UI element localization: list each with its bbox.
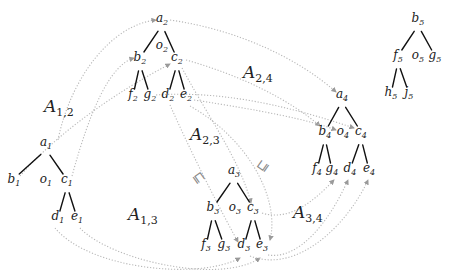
morphism-arrow-e1-e3: [80, 228, 260, 269]
tree-edge-c1-d1: [60, 193, 65, 211]
tree-edge-a1-b1: [19, 155, 41, 174]
tree-node-e3: e3: [256, 237, 268, 253]
morphism-label-A23: A2,3: [188, 124, 220, 147]
tree-node-f5: f5: [392, 48, 403, 64]
tree-node-d2: d2: [162, 87, 175, 103]
tree-edge-c4-d4: [352, 145, 358, 163]
tree-node-b5: b5: [412, 11, 425, 27]
morphism-label-A12: A1,2: [42, 96, 74, 119]
tree-node-a2: a2: [156, 11, 168, 27]
morphism-label-A34: A3,4: [291, 202, 323, 225]
tree-node-o4: o4: [337, 124, 349, 140]
tree-node-a3: a3: [228, 163, 240, 179]
tree-node-g2: g2: [144, 87, 157, 103]
tree-edge-c3-d3: [246, 221, 251, 239]
tree-node-o1: o1: [40, 172, 52, 188]
tree-edge-c2-d2: [170, 71, 175, 89]
tree-node-d1: d1: [52, 209, 65, 225]
tree-node-a4: a4: [336, 87, 348, 103]
tree-node-f2: f2: [127, 87, 138, 103]
tree-edge-b3-f3: [207, 221, 211, 239]
tree-edge-b4-f4: [319, 145, 324, 163]
tree-node-d4: d4: [344, 161, 357, 177]
tree-node-f4: f4: [311, 161, 322, 177]
tree-node-e4: e4: [363, 161, 375, 177]
morphism-arrows: [20, 20, 368, 269]
tree-node-f3: f3: [200, 237, 211, 253]
tree-node-d3: d3: [238, 237, 251, 253]
tree-morphism-diagram: a1b1o1c1d1e1a2o2b2c2f2g2d2e2a3b3o3c3f3g3…: [0, 0, 463, 280]
tree-node-c3: c3: [247, 200, 259, 216]
tree-node-g3: g3: [218, 237, 231, 253]
tree-edges: [19, 31, 431, 239]
morphism-arrow-c1-b2: [72, 58, 134, 176]
tree-node-o3: o3: [229, 200, 241, 216]
tree-edge-b2-f2: [134, 71, 138, 89]
morphism-arrow-d1-d3: [55, 228, 240, 269]
tree-node-g5: g5: [429, 48, 442, 64]
sqsubseteq-symbol-icon: ⊑: [190, 169, 209, 187]
tree-node-b4: b4: [319, 124, 332, 140]
tree-node-c1: c1: [61, 172, 73, 188]
tree-node-j5: j5: [402, 85, 414, 101]
tree-node-b1: b1: [8, 172, 21, 188]
tree-node-g4: g4: [326, 161, 339, 177]
morphism-label-A13: A1,3: [126, 204, 158, 227]
morphism-arrow-a1-a2: [58, 20, 156, 140]
tree-node-e1: e1: [71, 209, 83, 225]
tree-node-e2: e2: [180, 87, 192, 103]
morphism-label-A24: A2,4: [241, 62, 273, 85]
tree-node-c2: c2: [171, 50, 183, 66]
sqsubseteq-symbol-icon: ⊑: [253, 157, 272, 175]
tree-node-o5: o5: [412, 48, 424, 64]
tree-edge-f5-h5: [392, 69, 396, 87]
tree-node-a1: a1: [40, 135, 52, 151]
morphism-arrow-b1-c2: [20, 64, 170, 176]
tree-node-o2: o2: [156, 38, 168, 54]
tree-node-c4: c4: [355, 124, 367, 140]
tree-node-h5: h5: [385, 85, 398, 101]
